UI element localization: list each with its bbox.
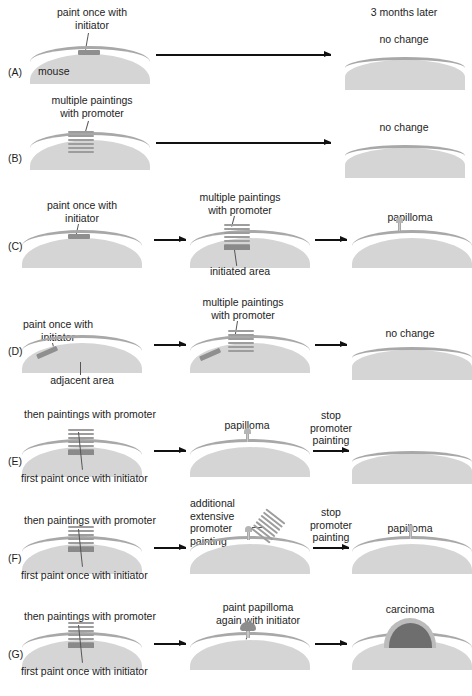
- arrow-e1: [154, 447, 186, 455]
- initiator-patch-c: [68, 234, 90, 239]
- mouse-skin-c-mid: [190, 228, 310, 268]
- papilloma-cap: [244, 428, 251, 434]
- panel-letter-g: (G): [8, 648, 23, 660]
- label-stop-promoter-painting-f: stop promoter painting: [310, 506, 352, 544]
- arrow-head: [342, 447, 349, 453]
- mouse-skin-f-result: [352, 534, 472, 574]
- epidermis: [345, 145, 465, 156]
- mouse-skin-b-result: [345, 138, 465, 178]
- label-then-paintings-promoter-f: then paintings with promoter: [24, 514, 156, 527]
- header-three-months-later: 3 months later: [371, 6, 438, 18]
- label-stop-promoter-painting-e: stop promoter painting: [310, 409, 352, 447]
- epidermis: [352, 451, 472, 462]
- arrow-head: [340, 640, 347, 646]
- initiator-patch-a: [78, 50, 100, 55]
- label-outcome-c: papilloma: [388, 211, 433, 224]
- label-adjacent-area: adjacent area: [50, 374, 114, 387]
- label-then-paintings-promoter-g: then paintings with promoter: [24, 610, 156, 623]
- initiator-cap: [240, 622, 256, 631]
- mouse-skin-e-result: [352, 444, 472, 484]
- arrow-b: [156, 139, 331, 147]
- arrow-g2: [315, 640, 347, 648]
- label-outcome-g: carcinoma: [386, 603, 434, 616]
- label-mouse: mouse: [38, 65, 70, 78]
- arrow-d2: [315, 341, 347, 349]
- papilloma-cap: [407, 525, 414, 531]
- label-outcome-d: no change: [385, 327, 434, 340]
- panel-letter-e: (E): [8, 455, 22, 467]
- papilloma-cap: [396, 217, 403, 223]
- mouse-skin-a-result: [345, 50, 465, 90]
- label-outcome-a: no change: [379, 33, 428, 46]
- arrow-f1: [154, 544, 186, 552]
- label-multiple-paintings-promoter-c: multiple paintings with promoter: [199, 191, 280, 216]
- arrow-head: [324, 51, 331, 57]
- epidermis: [190, 230, 310, 246]
- arrow-head: [324, 139, 331, 145]
- papilloma-with-initiator-g: [240, 622, 256, 638]
- arrow-shaft: [156, 142, 331, 144]
- carcinoma-g: [384, 618, 436, 648]
- arrow-shaft: [156, 54, 331, 56]
- promoter-stack-d: [228, 330, 254, 352]
- arrow-head: [179, 544, 186, 550]
- label-then-paintings-promoter-e: then paintings with promoter: [24, 408, 156, 421]
- epidermis: [352, 230, 472, 246]
- label-paint-papilloma-again-initiator: paint papilloma again with initiator: [216, 601, 300, 626]
- label-multiple-paintings-promoter-d: multiple paintings with promoter: [202, 296, 283, 321]
- label-multiple-paintings-promoter-b: multiple paintings with promoter: [51, 94, 132, 119]
- label-paint-once-initiator-c: paint once with initiator: [47, 199, 117, 224]
- promoter-stack-c: [224, 224, 250, 246]
- epidermis: [22, 335, 142, 351]
- label-first-paint-initiator-g: first paint once with initiator: [21, 665, 148, 678]
- panel-letter-c: (C): [8, 240, 23, 252]
- papilloma-e: [244, 428, 251, 442]
- mouse-skin-e-mid: [190, 437, 310, 477]
- label-first-paint-initiator-f: first paint once with initiator: [21, 569, 148, 582]
- promoter-stack-f: [68, 526, 94, 548]
- mouse-skin-d-result: [352, 340, 472, 380]
- promoter-stack-g: [68, 622, 94, 644]
- arrow-g1: [154, 640, 186, 648]
- epidermis: [352, 347, 472, 358]
- panel-letter-f: (F): [8, 552, 21, 564]
- arrow-head: [179, 341, 186, 347]
- arrow-e2: [313, 447, 349, 455]
- papilloma-c: [396, 217, 403, 231]
- label-paint-once-initiator-a: paint once with initiator: [57, 6, 127, 31]
- arrow-head: [340, 341, 347, 347]
- mouse-skin-f-mid: [190, 534, 310, 574]
- mouse-skin-c-result: [352, 228, 472, 268]
- initiated-area-patch-c: [224, 245, 250, 250]
- label-first-paint-initiator-e: first paint once with initiator: [21, 472, 148, 485]
- panel-letter-a: (A): [8, 66, 22, 78]
- papilloma-f-result: [407, 525, 414, 539]
- label-outcome-b: no change: [379, 121, 428, 134]
- arrow-head: [179, 447, 186, 453]
- arrow-a: [156, 51, 331, 59]
- arrow-c2: [315, 236, 347, 244]
- label-initiated-area: initiated area: [210, 265, 270, 278]
- panel-letter-d: (D): [8, 345, 23, 357]
- arrow-d1: [154, 341, 186, 349]
- panel-letter-b: (B): [8, 152, 22, 164]
- arrow-f2: [313, 544, 349, 552]
- arrow-head: [179, 236, 186, 242]
- arrow-head: [179, 640, 186, 646]
- arrow-head: [342, 544, 349, 550]
- promoter-stack-e: [68, 429, 94, 451]
- promoter-stack-b: [68, 131, 94, 153]
- epidermis: [345, 57, 465, 68]
- arrow-c1: [154, 236, 186, 244]
- arrow-head: [340, 236, 347, 242]
